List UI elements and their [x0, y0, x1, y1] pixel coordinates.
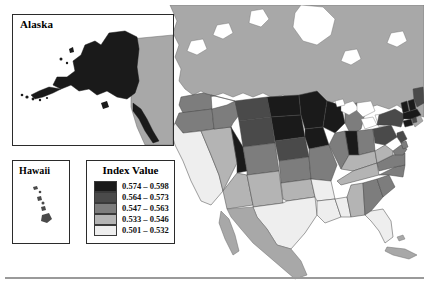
state-NM	[247, 171, 283, 207]
alaska-inset-title: Alaska	[20, 18, 53, 31]
legend-label: 0.501 – 0.532	[122, 225, 169, 236]
legend-row: 0.533 – 0.546	[94, 214, 170, 225]
map-bottom-neatline	[5, 277, 424, 279]
alaska-inset-svg	[13, 15, 173, 145]
state-SD	[271, 115, 305, 141]
legend-label: 0.564 – 0.573	[122, 192, 169, 203]
hawaii-inset-title: Hawaii	[19, 164, 50, 177]
state-WY	[239, 117, 275, 147]
legend-swatch	[94, 192, 117, 203]
legend-label: 0.574 – 0.598	[122, 181, 169, 192]
legend-title: Index Value	[87, 163, 174, 177]
state-OR	[175, 109, 214, 133]
legend-row: 0.574 – 0.598	[94, 181, 170, 192]
legend-label: 0.533 – 0.546	[122, 214, 169, 225]
legend-row: 0.564 – 0.573	[94, 192, 170, 203]
legend: Index Value 0.574 – 0.5980.564 – 0.5730.…	[86, 160, 175, 244]
state-CO	[243, 143, 279, 175]
state-KS	[279, 157, 311, 183]
legend-label: 0.547 – 0.563	[122, 203, 169, 214]
legend-swatch	[94, 225, 117, 236]
legend-row: 0.547 – 0.563	[94, 203, 170, 214]
legend-swatch	[94, 214, 117, 225]
state-NE	[275, 137, 309, 161]
legend-row: 0.501 – 0.532	[94, 225, 170, 236]
choropleth-map-figure: Alaska Hawaii Index Value 0.574 – 0.5980…	[0, 0, 429, 290]
legend-rows: 0.574 – 0.5980.564 – 0.5730.547 – 0.5630…	[94, 181, 170, 236]
state-OH	[357, 129, 375, 155]
legend-swatch	[94, 203, 117, 214]
legend-swatch	[94, 181, 117, 192]
alaska-inset-panel: Alaska	[12, 14, 174, 146]
state-ND	[267, 95, 301, 117]
hawaii-inset-panel: Hawaii	[12, 160, 70, 244]
state-MN	[299, 91, 327, 129]
